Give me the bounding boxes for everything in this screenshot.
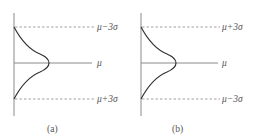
mean-label: μ bbox=[221, 58, 227, 68]
panel-b: μ+3σ μ μ−3σ (b) bbox=[141, 13, 243, 135]
bottom-label: μ−3σ bbox=[221, 94, 243, 104]
figure: μ−3σ μ μ+3σ (a) μ+3σ μ μ−3σ (b) bbox=[0, 0, 256, 140]
caption: (a) bbox=[47, 124, 58, 135]
panel-a: μ−3σ μ μ+3σ (a) bbox=[14, 13, 118, 135]
bottom-label: μ+3σ bbox=[96, 94, 118, 104]
top-label: μ+3σ bbox=[221, 22, 243, 32]
mean-label: μ bbox=[96, 58, 102, 68]
caption: (b) bbox=[172, 124, 183, 135]
top-label: μ−3σ bbox=[96, 22, 118, 32]
